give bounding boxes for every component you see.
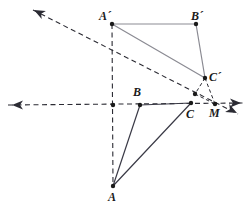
label-Aprime: A´ <box>99 10 111 22</box>
label-C: C <box>186 108 194 120</box>
point-C <box>189 101 193 105</box>
diagram-canvas <box>0 0 250 206</box>
triangle-ABC <box>113 103 191 186</box>
label-Cprime: C´ <box>209 71 221 83</box>
label-M: M <box>209 107 220 119</box>
point-P <box>193 92 197 96</box>
point-B <box>138 103 142 107</box>
arrow-upper-left-head <box>32 6 46 19</box>
point-A <box>111 184 115 188</box>
segment-Cprime-P <box>195 78 205 94</box>
geometry-diagram: ABCMA´B´C´ <box>0 0 250 206</box>
point-Cprime <box>203 76 207 80</box>
horizontal-axis <box>8 103 243 105</box>
label-Bprime: B´ <box>191 10 203 22</box>
arrow-upper-left <box>32 6 46 19</box>
point-O <box>111 103 115 107</box>
label-A: A <box>108 191 116 203</box>
label-B: B <box>133 86 141 98</box>
triangle-ApBpCp <box>112 24 205 78</box>
